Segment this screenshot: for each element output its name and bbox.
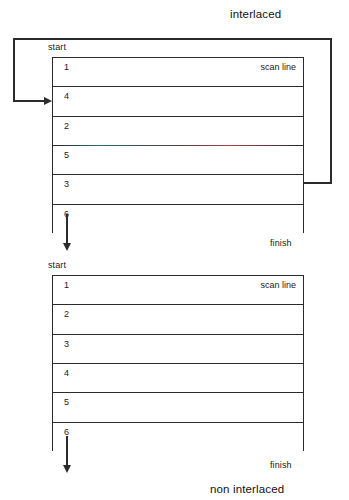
table-row: 3 [53, 335, 303, 364]
interlaced-right-vertical-wire [330, 38, 332, 184]
table-row: 2 [53, 305, 303, 334]
non-interlaced-exit-arrow-icon [63, 465, 71, 473]
interlaced-scan-box: 1 scan line 4 2 5 3 6 [52, 57, 304, 233]
scan-line-number: 2 [64, 309, 69, 320]
non-interlaced-finish-label: finish [270, 460, 292, 471]
scan-line-number: 5 [64, 150, 69, 161]
scan-line-label: scan line [260, 280, 296, 291]
scan-line-number: 1 [64, 62, 69, 73]
interlaced-feed-in-wire [13, 100, 46, 102]
interlacing-diagram: interlaced start finish 1 scan line 4 2 … [0, 0, 349, 500]
scan-line-number: 1 [64, 280, 69, 291]
interlaced-exit-wire [66, 214, 68, 244]
scan-line-number: 5 [64, 397, 69, 408]
non-interlaced-scan-box: 1 scan line 2 3 4 5 6 [52, 275, 304, 451]
table-row: 6 [53, 423, 303, 452]
scan-line-number: 2 [64, 121, 69, 132]
non-interlaced-start-label: start [48, 260, 66, 271]
table-row: 5 [53, 393, 303, 422]
scan-line-number: 4 [64, 368, 69, 379]
interlaced-start-label: start [48, 42, 66, 53]
scan-line-label: scan line [260, 62, 296, 73]
interlaced-top-horizontal-wire [13, 38, 332, 40]
interlaced-finish-label: finish [270, 238, 292, 249]
table-row: 3 [53, 175, 303, 204]
interlaced-right-return-wire [302, 182, 332, 184]
interlaced-feed-in-arrow-icon [44, 97, 52, 105]
table-row: 5 [53, 146, 303, 175]
table-row: 4 [53, 87, 303, 116]
interlaced-title: interlaced [230, 8, 281, 21]
scan-line-number: 3 [64, 339, 69, 350]
table-row: 2 [53, 117, 303, 146]
table-row: 6 [53, 205, 303, 234]
table-row: 4 [53, 364, 303, 393]
interlaced-left-vertical-wire [13, 38, 15, 101]
table-row: 1 scan line [53, 276, 303, 305]
non-interlaced-title: non interlaced [210, 483, 284, 496]
scan-line-number: 4 [64, 91, 69, 102]
interlaced-exit-arrow-icon [63, 243, 71, 251]
non-interlaced-exit-wire [66, 436, 68, 466]
scan-line-number: 3 [64, 179, 69, 190]
table-row: 1 scan line [53, 58, 303, 87]
